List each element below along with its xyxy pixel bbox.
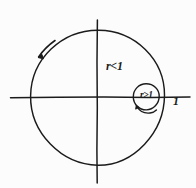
big-circle-arrowhead-icon: [38, 54, 43, 59]
figure-canvas: r<1 r>1 1: [0, 0, 196, 188]
vertical-axis: [97, 20, 98, 183]
small-circle-label-r-greater-than-one: r>1: [140, 91, 153, 101]
diagram-svg: [0, 0, 196, 188]
horizontal-axis: [11, 97, 191, 98]
region-label-r-less-than-one: r<1: [106, 60, 123, 72]
axis-tick-label-one: 1: [173, 95, 179, 107]
